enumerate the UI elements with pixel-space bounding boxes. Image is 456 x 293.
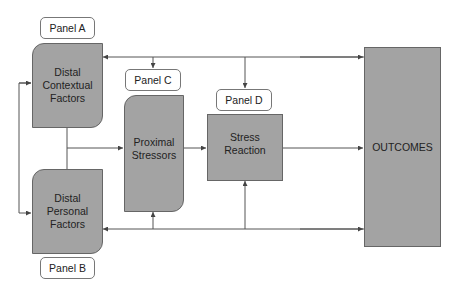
proximal-stressors-node: Proximal Stressors: [124, 95, 184, 212]
panel-d-label: Panel D: [216, 89, 272, 111]
distal-personal-factors-node: Distal Personal Factors: [32, 169, 103, 254]
panel-a-label: Panel A: [40, 17, 95, 39]
panel-c-label: Panel C: [125, 69, 181, 91]
panel-c-text: Panel C: [134, 74, 171, 86]
stress-reaction-node: Stress Reaction: [207, 114, 283, 181]
proximal-stressors-text: Proximal Stressors: [128, 136, 180, 162]
panel-b-text: Panel B: [49, 262, 86, 274]
distal-contextual-factors-node: Distal Contextual Factors: [32, 43, 103, 128]
panel-b-label: Panel B: [40, 257, 95, 279]
panel-a-text: Panel A: [49, 22, 85, 34]
outcomes-text: OUTCOMES: [372, 141, 433, 154]
outcomes-node: OUTCOMES: [364, 47, 441, 247]
distal-personal-text: Distal Personal Factors: [38, 192, 98, 231]
stress-reaction-text: Stress Reaction: [220, 131, 270, 157]
distal-contextual-text: Distal Contextual Factors: [38, 66, 98, 105]
panel-d-text: Panel D: [225, 94, 262, 106]
